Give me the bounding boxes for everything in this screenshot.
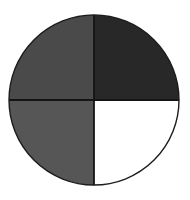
figure-container — [0, 0, 190, 200]
quartered-circle-chart — [0, 0, 190, 200]
